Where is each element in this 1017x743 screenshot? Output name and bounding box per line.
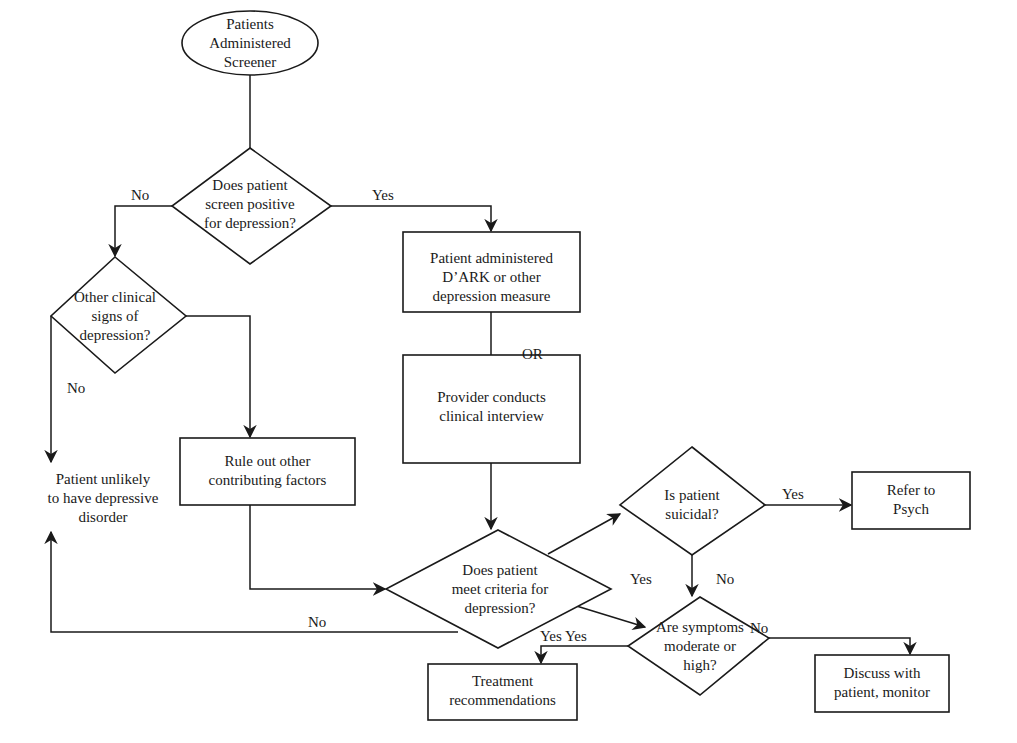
edge-label-suicidal-no: No xyxy=(716,571,734,588)
edge-screen-no xyxy=(115,206,172,256)
edge-label-signs-no: No xyxy=(67,380,85,397)
suicidal-line-2: suicidal? xyxy=(642,505,742,524)
rule-out-label: Rule out other contributing factors xyxy=(180,452,355,490)
criteria-line-1: Does patient xyxy=(435,561,565,580)
suicidal-line-1: Is patient xyxy=(642,486,742,505)
administer-measure-label: Patient administered D’ARK or other depr… xyxy=(403,249,580,306)
rule-out-line-2: contributing factors xyxy=(180,471,355,490)
administer-line-1: Patient administered xyxy=(403,249,580,268)
refer-psych-label: Refer to Psych xyxy=(852,481,970,519)
edge-criteria-to-suicidal xyxy=(548,514,620,554)
flowchart-canvas xyxy=(0,0,1017,743)
symptoms-line-2: moderate or xyxy=(645,637,755,656)
symptoms-level-label: Are symptoms moderate or high? xyxy=(645,618,755,675)
administer-line-3: depression measure xyxy=(403,287,580,306)
unlikely-label: Patient unlikely to have depressive diso… xyxy=(38,470,168,527)
edge-label-or: OR xyxy=(522,346,543,363)
edge-symptoms-yes xyxy=(541,646,628,663)
interview-line-1: Provider conducts xyxy=(403,388,580,407)
edge-label-criteria-yes-symptoms: Yes xyxy=(565,628,587,645)
edge-label-criteria-yes-suicidal: Yes xyxy=(630,571,652,588)
edge-label-screen-yes: Yes xyxy=(372,187,394,204)
interview-line-2: clinical interview xyxy=(403,407,580,426)
edge-criteria-to-symptoms xyxy=(570,604,645,627)
refer-line-1: Refer to xyxy=(852,481,970,500)
unlikely-line-1: Patient unlikely xyxy=(38,470,168,489)
edge-criteria-no xyxy=(51,532,458,632)
refer-line-2: Psych xyxy=(852,500,970,519)
edge-signs-yes xyxy=(186,316,250,437)
edge-label-criteria-no: No xyxy=(308,614,326,631)
clinical-interview-label: Provider conducts clinical interview xyxy=(403,388,580,426)
start-line-2: Administered xyxy=(190,34,310,53)
edge-label-suicidal-yes: Yes xyxy=(782,486,804,503)
edge-ruleout-to-criteria xyxy=(250,505,385,589)
discuss-monitor-label: Discuss with patient, monitor xyxy=(815,664,949,702)
screen-positive-line-2: screen positive xyxy=(190,195,310,214)
screen-positive-line-1: Does patient xyxy=(190,176,310,195)
treatment-line-1: Treatment xyxy=(428,672,577,691)
treatment-line-2: recommendations xyxy=(428,691,577,710)
other-signs-line-1: Other clinical xyxy=(60,288,170,307)
rule-out-line-1: Rule out other xyxy=(180,452,355,471)
screen-positive-line-3: for depression? xyxy=(190,214,310,233)
start-line-1: Patients xyxy=(190,15,310,34)
other-signs-line-3: depression? xyxy=(60,326,170,345)
unlikely-line-3: disorder xyxy=(38,508,168,527)
other-signs-label: Other clinical signs of depression? xyxy=(60,288,170,345)
edge-screen-yes xyxy=(331,206,491,231)
edge-symptoms-no xyxy=(769,638,910,654)
criteria-line-2: meet criteria for xyxy=(435,580,565,599)
edge-label-symptoms-no: No xyxy=(750,620,768,637)
administer-line-2: D’ARK or other xyxy=(403,268,580,287)
discuss-line-2: patient, monitor xyxy=(815,683,949,702)
edge-label-screen-no: No xyxy=(131,187,149,204)
start-label: Patients Administered Screener xyxy=(190,15,310,72)
start-line-3: Screener xyxy=(190,53,310,72)
symptoms-line-3: high? xyxy=(645,656,755,675)
symptoms-line-1: Are symptoms xyxy=(645,618,755,637)
unlikely-line-2: to have depressive xyxy=(38,489,168,508)
suicidal-label: Is patient suicidal? xyxy=(642,486,742,524)
edge-label-symptoms-yes: Yes xyxy=(540,628,562,645)
meet-criteria-label: Does patient meet criteria for depressio… xyxy=(435,561,565,618)
treatment-label: Treatment recommendations xyxy=(428,672,577,710)
criteria-line-3: depression? xyxy=(435,599,565,618)
discuss-line-1: Discuss with xyxy=(815,664,949,683)
screen-positive-label: Does patient screen positive for depress… xyxy=(190,176,310,233)
other-signs-line-2: signs of xyxy=(60,307,170,326)
